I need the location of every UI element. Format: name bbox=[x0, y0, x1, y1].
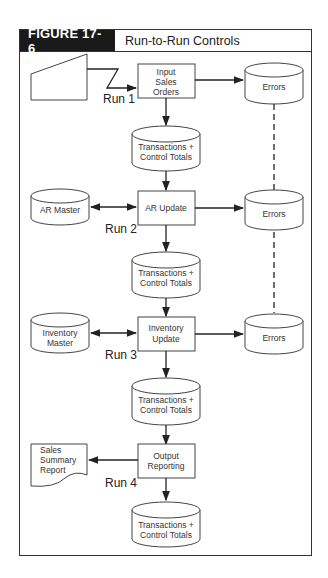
svg-text:Transactions +: Transactions + bbox=[138, 520, 194, 530]
run-4-label: Run 4 bbox=[105, 476, 137, 490]
svg-text:Control Totals: Control Totals bbox=[140, 152, 192, 162]
document-sales-summary-report: Sales Summary Report bbox=[31, 444, 87, 486]
svg-text:Control Totals: Control Totals bbox=[140, 278, 192, 288]
run-1-label: Run 1 bbox=[103, 92, 135, 106]
svg-text:Errors: Errors bbox=[262, 333, 285, 343]
storage-transactions-2: Transactions + Control Totals bbox=[132, 252, 200, 298]
process-label: Output bbox=[153, 451, 179, 461]
process-label: Sales bbox=[155, 77, 176, 87]
process-label: Input bbox=[157, 67, 177, 77]
storage-transactions-4: Transactions + Control Totals bbox=[132, 502, 200, 547]
svg-text:Transactions +: Transactions + bbox=[138, 395, 194, 405]
run-to-run-diagram: Run 1 Input Sales Orders Errors Transact… bbox=[0, 0, 328, 578]
storage-errors-3: Errors bbox=[245, 314, 303, 354]
storage-inventory-master: Inventory Master bbox=[31, 313, 89, 353]
process-label: AR Update bbox=[145, 203, 187, 213]
communication-link-arrow bbox=[87, 69, 136, 88]
storage-errors-1: Errors bbox=[245, 63, 303, 104]
svg-text:Transactions +: Transactions + bbox=[138, 142, 194, 152]
storage-ar-master: AR Master bbox=[31, 189, 89, 225]
svg-text:AR Master: AR Master bbox=[40, 205, 80, 215]
svg-text:Control Totals: Control Totals bbox=[140, 405, 192, 415]
svg-text:Errors: Errors bbox=[262, 82, 285, 92]
process-label: Inventory bbox=[149, 323, 185, 333]
svg-text:Summary: Summary bbox=[40, 455, 77, 465]
run-2-label: Run 2 bbox=[105, 222, 137, 236]
svg-text:Errors: Errors bbox=[262, 209, 285, 219]
svg-text:Master: Master bbox=[47, 338, 73, 348]
storage-transactions-3: Transactions + Control Totals bbox=[132, 378, 200, 425]
process-label: Orders bbox=[153, 87, 179, 97]
svg-text:Report: Report bbox=[40, 465, 66, 475]
svg-text:Transactions +: Transactions + bbox=[138, 268, 194, 278]
process-label: Reporting bbox=[148, 461, 185, 471]
storage-transactions-1: Transactions + Control Totals bbox=[132, 126, 200, 171]
svg-text:Control Totals: Control Totals bbox=[140, 530, 192, 540]
svg-text:Sales: Sales bbox=[40, 445, 61, 455]
process-label: Update bbox=[152, 334, 180, 344]
storage-errors-2: Errors bbox=[245, 190, 303, 230]
svg-text:Inventory: Inventory bbox=[43, 328, 79, 338]
run-3-label: Run 3 bbox=[105, 348, 137, 362]
manual-input-shape bbox=[31, 54, 87, 100]
